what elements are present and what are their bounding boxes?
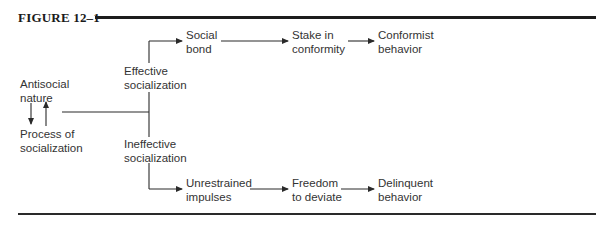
node-line: behavior: [378, 191, 433, 205]
node-line: Conformist: [378, 29, 434, 43]
node-line: Antisocial: [20, 78, 69, 92]
node-effective-socialization: Effective socialization: [124, 65, 187, 92]
node-line: impulses: [186, 191, 252, 205]
node-unrestrained-impulses: Unrestrained impulses: [186, 177, 252, 204]
node-social-bond: Social bond: [186, 29, 217, 56]
node-line: behavior: [378, 43, 434, 57]
node-line: socialization: [124, 79, 187, 93]
node-stake-in-conformity: Stake in conformity: [292, 29, 345, 56]
node-line: Delinquent: [378, 177, 433, 191]
node-line: socialization: [20, 142, 83, 156]
node-line: Process of: [20, 128, 83, 142]
node-line: Ineffective: [124, 138, 187, 152]
node-conformist-behavior: Conformist behavior: [378, 29, 434, 56]
node-line: socialization: [124, 152, 187, 166]
node-line: Stake in: [292, 29, 345, 43]
node-line: Social: [186, 29, 217, 43]
node-antisocial-nature: Antisocial nature: [20, 78, 69, 105]
node-line: Effective: [124, 65, 187, 79]
node-ineffective-socialization: Ineffective socialization: [124, 138, 187, 165]
node-line: conformity: [292, 43, 345, 57]
node-line: nature: [20, 92, 69, 106]
node-process-of-socialization: Process of socialization: [20, 128, 83, 155]
node-freedom-to-deviate: Freedom to deviate: [292, 177, 342, 204]
node-line: Freedom: [292, 177, 342, 191]
node-line: to deviate: [292, 191, 342, 205]
node-line: bond: [186, 43, 217, 57]
node-delinquent-behavior: Delinquent behavior: [378, 177, 433, 204]
node-line: Unrestrained: [186, 177, 252, 191]
